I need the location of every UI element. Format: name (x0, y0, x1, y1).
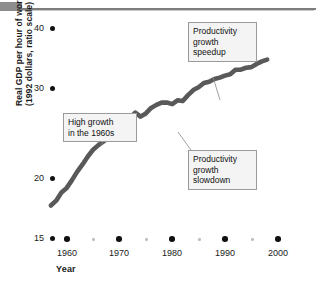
x-axis-title: Year (56, 264, 76, 274)
callout-productivity-growth-slowdown: Productivity growth slowdown (188, 150, 257, 190)
x-tick-minor-dot-1985 (198, 238, 201, 241)
y-tick-label-40: 40 (22, 23, 44, 33)
x-tick-dot-2000 (275, 236, 281, 242)
x-tick-dot-1980 (169, 236, 175, 242)
y-tick-dot-30 (50, 86, 55, 91)
y-tick-dot-15 (50, 236, 55, 241)
leader-line-slowdown (178, 132, 191, 150)
y-tick-label-15: 15 (22, 233, 44, 243)
x-tick-dot-1960 (64, 236, 70, 242)
top-divider-bar (0, 0, 322, 14)
callout-high-growth: High growth in the 1960s (63, 113, 137, 142)
x-tick-label-1960: 1960 (50, 248, 84, 258)
x-tick-minor-dot-1965 (92, 238, 95, 241)
x-tick-label-1970: 1970 (102, 248, 136, 258)
x-tick-label-1990: 1990 (208, 248, 242, 258)
y-tick-label-30: 30 (22, 83, 44, 93)
x-tick-label-1980: 1980 (155, 248, 189, 258)
x-tick-dot-1970 (116, 236, 122, 242)
x-tick-label-2000: 2000 (261, 248, 295, 258)
chart-figure: Real GDP per hour of work (1992 dollars,… (0, 14, 322, 284)
x-tick-minor-dot-1995 (251, 238, 254, 241)
x-tick-dot-1990 (222, 236, 228, 242)
y-tick-label-20: 20 (22, 173, 44, 183)
y-tick-dot-20 (50, 176, 55, 181)
y-tick-dot-40 (50, 26, 55, 31)
x-tick-minor-dot-1975 (145, 238, 148, 241)
callout-productivity-growth-speedup: Productivity growth speedup (188, 22, 257, 62)
top-bar-rule-shadow (18, 10, 314, 11)
chart-plot-svg (0, 14, 322, 284)
